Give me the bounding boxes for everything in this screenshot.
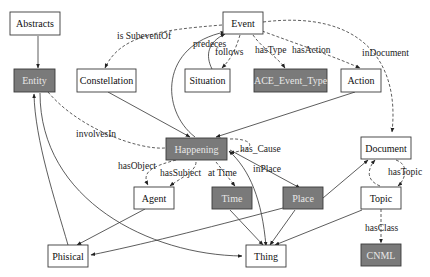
node-topic: Topic — [361, 187, 401, 209]
edge-constellation-happening — [108, 92, 190, 137]
label-is-subevent-of: is SubeventOf — [117, 31, 172, 41]
ontology-diagram: is SubeventOf predeces follows hasType h… — [0, 0, 430, 277]
svg-text:Phisical: Phisical — [52, 251, 84, 262]
node-phisical: Phisical — [48, 245, 88, 267]
svg-text:Document: Document — [365, 143, 407, 154]
label-follows: follows — [215, 47, 244, 57]
label-has-topic: hasTopic — [388, 167, 422, 177]
label-in-place: inPlace — [253, 164, 281, 174]
svg-text:Action: Action — [347, 75, 374, 86]
node-situation: Situation — [185, 69, 230, 92]
label-at-time: at Time — [208, 168, 237, 178]
svg-text:Event: Event — [231, 18, 255, 29]
node-document: Document — [361, 137, 411, 159]
label-has-type: hasType — [255, 45, 287, 55]
edge-time-thing — [230, 210, 263, 245]
node-event: Event — [223, 12, 263, 34]
svg-text:Constellation: Constellation — [80, 75, 133, 86]
node-thing: Thing — [246, 245, 286, 267]
node-agent: Agent — [134, 187, 174, 209]
edge-topic-thing — [275, 210, 362, 245]
node-action: Action — [341, 69, 381, 92]
node-happening: Happening — [166, 138, 227, 160]
label-has-object: hasObject — [118, 161, 156, 171]
label-has-action: hasAction — [292, 45, 331, 55]
node-constellation: Constellation — [77, 69, 136, 92]
edge-phisical-entity — [34, 94, 68, 245]
edge-action-happening — [216, 92, 355, 137]
node-ace-event-type: ACE_Event_Type — [254, 69, 328, 92]
label-in-document: inDocument — [362, 48, 409, 58]
svg-text:Abstracts: Abstracts — [16, 18, 54, 29]
node-entity: Entity — [14, 69, 55, 92]
svg-text:Time: Time — [222, 193, 243, 204]
svg-text:Topic: Topic — [370, 193, 393, 204]
node-abstracts: Abstracts — [10, 12, 60, 35]
svg-text:Situation: Situation — [189, 75, 225, 86]
svg-text:Entity: Entity — [22, 75, 46, 86]
svg-text:Place: Place — [292, 193, 314, 204]
edge-agent-phisical — [77, 209, 145, 245]
label-has-subject: hasSubject — [160, 168, 202, 178]
label-involves-in: involvesIn — [76, 129, 116, 139]
svg-text:Agent: Agent — [142, 193, 167, 204]
edge-involves-in — [48, 92, 165, 148]
node-place: Place — [283, 187, 323, 209]
svg-text:Thing: Thing — [254, 251, 278, 262]
edge-place-thing — [270, 210, 295, 245]
label-has-class: hasClass — [365, 223, 399, 233]
edge-topic-document — [369, 160, 380, 186]
svg-text:CNML: CNML — [367, 250, 396, 261]
svg-text:Happening: Happening — [175, 144, 219, 155]
node-cnml: CNML — [361, 244, 401, 266]
node-time: Time — [212, 187, 252, 209]
svg-text:ACE_Event_Type: ACE_Event_Type — [254, 75, 328, 86]
label-has-cause: has_Cause — [240, 144, 281, 154]
